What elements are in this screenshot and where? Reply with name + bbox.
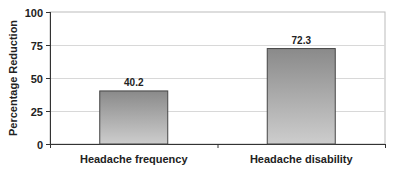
data-label: 72.3: [292, 35, 312, 46]
y-tick-label: 25: [31, 106, 43, 118]
bar-chart: 025507510040.2Headache frequency72.3Head…: [0, 0, 397, 173]
y-tick-label: 0: [37, 139, 43, 151]
x-tick-label: Headache frequency: [80, 153, 188, 165]
bar: [267, 49, 335, 144]
data-label: 40.2: [124, 77, 144, 88]
y-tick-label: 50: [31, 73, 43, 85]
y-tick-label: 75: [31, 40, 43, 52]
plot-area: 025507510040.2Headache frequency72.3Head…: [25, 7, 386, 166]
y-axis-label: Percentage Reduction: [7, 20, 19, 136]
y-tick-label: 100: [25, 7, 43, 19]
bar: [100, 91, 168, 144]
x-tick-label: Headache disability: [250, 153, 354, 165]
